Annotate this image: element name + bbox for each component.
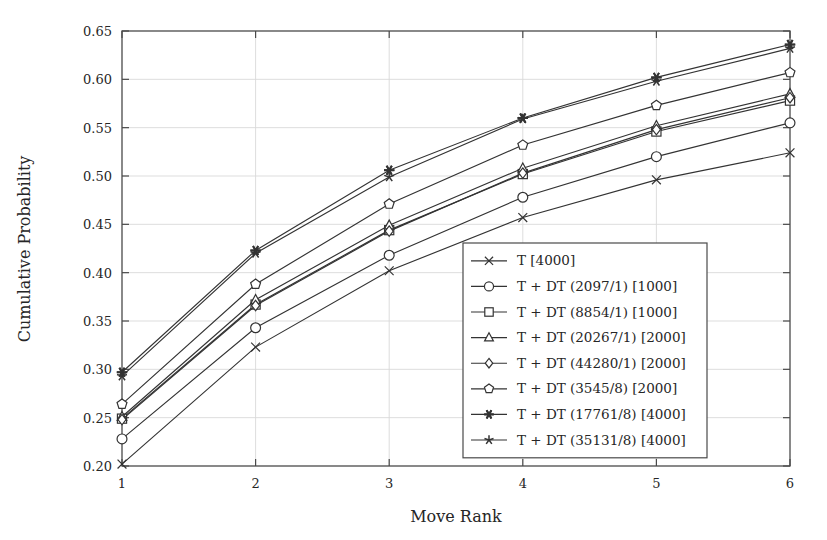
chart-canvas: 0.200.250.300.350.400.450.500.550.600.65… <box>0 0 827 540</box>
marker-circle <box>117 434 127 444</box>
legend-label: T [4000] <box>517 252 575 268</box>
marker-circle <box>384 250 394 260</box>
marker-circle <box>651 152 661 162</box>
x-tick-label: 4 <box>519 476 527 491</box>
x-tick-label: 5 <box>652 476 660 491</box>
legend-label: T + DT (35131/8) [4000] <box>517 432 686 448</box>
legend-label: T + DT (20267/1) [2000] <box>517 329 686 345</box>
x-tick-label: 1 <box>118 476 126 491</box>
y-tick-label: 0.40 <box>83 266 112 281</box>
y-tick-label: 0.30 <box>83 362 112 377</box>
chart-legend: T [4000]T + DT (2097/1) [1000]T + DT (88… <box>463 243 707 458</box>
y-tick-label: 0.65 <box>83 24 112 39</box>
marker-square <box>485 308 493 316</box>
y-axis-title: Cumulative Probability <box>15 156 34 343</box>
x-tick-label: 6 <box>786 476 794 491</box>
y-tick-label: 0.20 <box>83 459 112 474</box>
y-tick-label: 0.50 <box>83 169 112 184</box>
y-tick-label: 0.35 <box>83 314 112 329</box>
marker-circle <box>484 282 493 291</box>
y-tick-label: 0.60 <box>83 72 112 87</box>
legend-box <box>463 243 707 458</box>
x-tick-label: 2 <box>251 476 259 491</box>
x-axis-title: Move Rank <box>410 507 502 526</box>
legend-label: T + DT (3545/8) [2000] <box>517 380 677 396</box>
y-tick-label: 0.45 <box>83 217 112 232</box>
legend-label: T + DT (44280/1) [2000] <box>517 355 686 371</box>
marker-circle <box>785 118 795 128</box>
marker-circle <box>518 192 528 202</box>
marker-circle <box>251 323 261 333</box>
legend-label: T + DT (2097/1) [1000] <box>517 278 677 294</box>
legend-label: T + DT (17761/8) [4000] <box>517 406 686 422</box>
y-tick-label: 0.55 <box>83 121 112 136</box>
chart-figure: 0.200.250.300.350.400.450.500.550.600.65… <box>0 0 827 540</box>
legend-label: T + DT (8854/1) [1000] <box>517 304 677 320</box>
y-tick-label: 0.25 <box>83 411 112 426</box>
x-tick-label: 3 <box>385 476 393 491</box>
